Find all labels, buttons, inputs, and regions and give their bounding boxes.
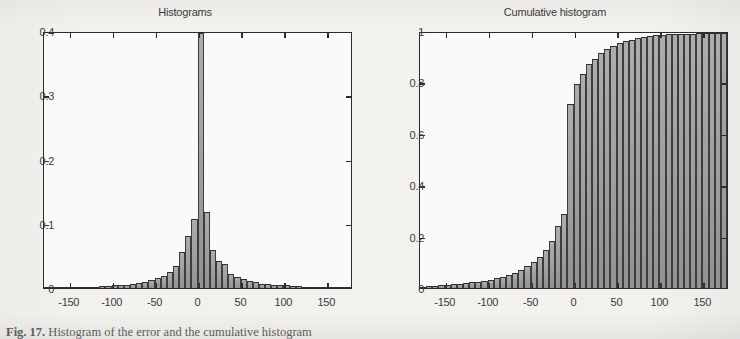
x-axis-tick-top [241, 33, 242, 38]
x-axis-tick-label: 100 [651, 296, 668, 308]
x-axis-tick-top [70, 33, 71, 38]
x-axis-tick [660, 283, 661, 288]
y-axis-tick-label: 0 [384, 283, 424, 295]
y-axis-tick-label: 0.4 [384, 180, 424, 192]
x-axis-tick-top [532, 33, 533, 38]
figure-histograms: Histograms 0.40.30.20.10 -150-100-500501… [0, 0, 740, 339]
y-axis-tick-label: 0.1 [20, 219, 54, 231]
x-axis-tick-label: 0 [571, 296, 577, 308]
bar-series-histograms [44, 33, 351, 288]
x-axis-tick-top [199, 33, 200, 38]
x-axis-tick-label: -100 [101, 296, 122, 308]
x-axis-tick [284, 283, 285, 288]
figure-caption: Fig. 17. Histogram of the error and the … [6, 325, 736, 339]
y-axis-tick-right [346, 225, 351, 226]
x-axis-tick-label: -150 [434, 296, 455, 308]
y-axis-tick-label: 0.2 [20, 155, 54, 167]
x-axis-tick-label: 50 [611, 296, 623, 308]
y-axis-tick-right [722, 238, 727, 239]
x-axis-tick-top [660, 33, 661, 38]
x-axis-tick-top [446, 33, 447, 38]
y-axis-tick-label: 0.6 [384, 129, 424, 141]
x-axis-tick [532, 283, 533, 288]
y-axis-tick-right [722, 135, 727, 136]
y-axis-tick-label: 0.4 [20, 26, 54, 38]
x-axis-tick-label: 0 [195, 296, 201, 308]
x-axis-tick-label: -150 [58, 296, 79, 308]
x-axis-tick-top [575, 33, 576, 38]
y-axis-tick-right [722, 186, 727, 187]
bar-series-cumulative [420, 33, 727, 288]
y-axis-tick-label: 1 [384, 26, 424, 38]
y-axis-tick-label: 0.2 [384, 232, 424, 244]
bar [721, 33, 727, 288]
plot-area-histograms [43, 32, 352, 289]
x-axis-tick-top [617, 33, 618, 38]
x-axis-tick-top [113, 33, 114, 38]
x-axis-tick [241, 283, 242, 288]
y-axis-tick-label: 0 [20, 283, 54, 295]
x-axis-tick [617, 283, 618, 288]
x-axis-tick-label: -50 [523, 296, 538, 308]
x-axis-tick [575, 283, 576, 288]
x-axis-tick [156, 283, 157, 288]
figure-caption-label: Fig. 17. [6, 325, 45, 339]
x-axis-tick-label: 150 [694, 296, 711, 308]
y-axis-tick-right [722, 83, 727, 84]
panel-cumulative-histogram: Cumulative histogram 10.80.60.40.20 -150… [370, 0, 740, 318]
x-axis-tick-label: -100 [477, 296, 498, 308]
x-axis-tick-top [703, 33, 704, 38]
x-axis-tick [446, 283, 447, 288]
y-axis-tick-label: 0.3 [20, 90, 54, 102]
x-axis-tick-top [156, 33, 157, 38]
bar [345, 287, 351, 288]
chart-title-cumulative: Cumulative histogram [370, 6, 740, 18]
x-axis-tick-label: -50 [147, 296, 162, 308]
x-axis-tick [703, 283, 704, 288]
x-axis-tick-top [327, 33, 328, 38]
x-axis-tick-label: 100 [275, 296, 292, 308]
figure-caption-text: Histogram of the error and the cumulativ… [48, 325, 311, 339]
panel-histograms: Histograms 0.40.30.20.10 -150-100-500501… [0, 0, 370, 318]
x-axis-tick-label: 50 [235, 296, 247, 308]
y-axis-tick-label: 0.8 [384, 77, 424, 89]
x-axis-tick-top [489, 33, 490, 38]
y-axis-tick-right [346, 161, 351, 162]
x-axis-tick [113, 283, 114, 288]
y-axis-tick-right [346, 96, 351, 97]
plot-area-cumulative [419, 32, 728, 289]
x-axis-tick [327, 283, 328, 288]
x-axis-tick-top [284, 33, 285, 38]
x-axis-tick [489, 283, 490, 288]
x-axis-tick [70, 283, 71, 288]
chart-title-histograms: Histograms [0, 6, 370, 18]
x-axis-tick-label: 150 [318, 296, 335, 308]
x-axis-tick [199, 283, 200, 288]
